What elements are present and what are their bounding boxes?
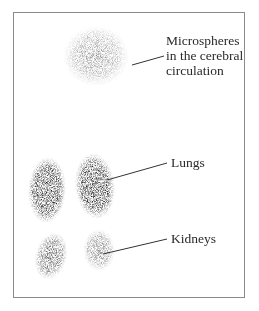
right-kidney-region	[83, 229, 115, 271]
left-lung-region	[26, 156, 67, 224]
cerebral-label-line-2: in the cerebral	[166, 48, 243, 63]
cerebral-label-line-1: Microspheres	[166, 33, 243, 48]
left-kidney-region	[29, 229, 72, 284]
kidneys-label: Kidneys	[171, 231, 216, 246]
cerebral-region	[63, 26, 129, 86]
lungs-label: Lungs	[171, 155, 205, 170]
cerebral-label-line-3: circulation	[166, 63, 243, 78]
cerebral-label: Microspheres in the cerebral circulation	[166, 33, 243, 78]
right-lung-region	[72, 151, 119, 221]
cerebral-leader-line	[132, 56, 164, 65]
lungs-leader-line	[107, 163, 167, 180]
